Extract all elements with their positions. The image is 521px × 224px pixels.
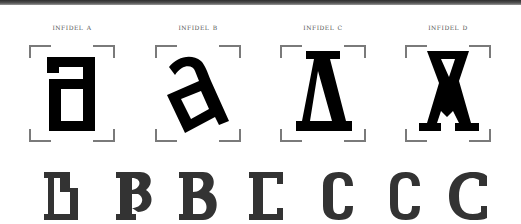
- variant-a: Infidel a: [22, 0, 122, 150]
- glyph-b3-icon: [175, 168, 225, 224]
- glyph-c2-icon: [315, 168, 365, 224]
- variant-d: Infidel D: [398, 0, 498, 150]
- glyph-a-icon: [29, 45, 115, 142]
- glyph-b1-icon: [40, 168, 90, 224]
- variant-b-frame: [155, 45, 241, 142]
- variant-b-label: Infidel B: [148, 22, 248, 32]
- variant-c: Infidel C: [273, 0, 373, 150]
- variant-b: Infidel B: [148, 0, 248, 150]
- bottom-glyph-row: [0, 168, 521, 224]
- variant-a-frame: [29, 45, 115, 142]
- glyph-c1-icon: [245, 168, 295, 224]
- glyph-a-delta-icon: [280, 45, 366, 142]
- variant-c-label: Infidel C: [273, 22, 373, 32]
- variant-d-label: Infidel D: [398, 22, 498, 32]
- variant-c-frame: [280, 45, 366, 142]
- variant-a-label: Infidel a: [22, 22, 122, 32]
- glyph-a-cross-icon: [405, 45, 491, 142]
- glyph-c3-icon: [380, 168, 430, 224]
- glyph-c4-icon: [443, 168, 493, 224]
- glyph-b2-icon: [110, 168, 160, 224]
- glyph-a-rotated-icon: [155, 45, 241, 142]
- variant-d-frame: [405, 45, 491, 142]
